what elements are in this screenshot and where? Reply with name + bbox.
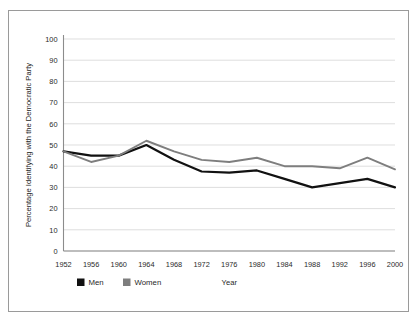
legend-swatch-women — [123, 279, 131, 287]
y-tick-label: 60 — [49, 120, 57, 129]
x-tick-labels: 1952195619601964196819721976198019841988… — [55, 260, 403, 269]
x-tick-label: 1972 — [193, 260, 209, 269]
x-tick-label: 1968 — [166, 260, 182, 269]
x-tick-label: 1996 — [359, 260, 375, 269]
x-tick-label: 1988 — [304, 260, 320, 269]
y-tick-label: 40 — [49, 162, 57, 171]
y-tick-label: 90 — [49, 56, 57, 65]
x-axis-title: Year — [222, 278, 238, 287]
y-axis-title: Percentage Identifying with the Democrat… — [24, 63, 33, 227]
x-tick-label: 1952 — [55, 260, 71, 269]
gridlines-group — [64, 39, 396, 251]
legend-label-men: Men — [89, 278, 104, 287]
x-tick-label: 1956 — [83, 260, 99, 269]
line-chart: 0102030405060708090100 19521956196019641… — [9, 11, 410, 313]
y-tick-labels: 0102030405060708090100 — [45, 35, 57, 256]
x-tick-label: 1980 — [249, 260, 265, 269]
x-tick-label: 1992 — [332, 260, 348, 269]
chart-legend: MenWomen — [77, 278, 161, 287]
legend-swatch-men — [77, 279, 85, 287]
x-tick-label: 1984 — [276, 260, 292, 269]
x-tick-label: 1960 — [111, 260, 127, 269]
y-tick-label: 10 — [49, 226, 57, 235]
y-tick-label: 0 — [53, 247, 57, 256]
y-tick-label: 70 — [49, 98, 57, 107]
y-tick-label: 80 — [49, 77, 57, 86]
y-tick-label: 30 — [49, 183, 57, 192]
x-tick-label: 1964 — [138, 260, 154, 269]
chart-canvas: 0102030405060708090100 19521956196019641… — [9, 11, 410, 313]
y-tick-label: 50 — [49, 141, 57, 150]
figure-root: 0102030405060708090100 19521956196019641… — [0, 0, 419, 324]
figure-frame: 0102030405060708090100 19521956196019641… — [8, 10, 409, 312]
series-group — [64, 141, 396, 188]
y-tick-label: 20 — [49, 204, 57, 213]
y-tick-label: 100 — [45, 35, 57, 44]
x-tick-label: 1976 — [221, 260, 237, 269]
legend-label-women: Women — [135, 278, 162, 287]
x-tick-label: 2000 — [387, 260, 403, 269]
